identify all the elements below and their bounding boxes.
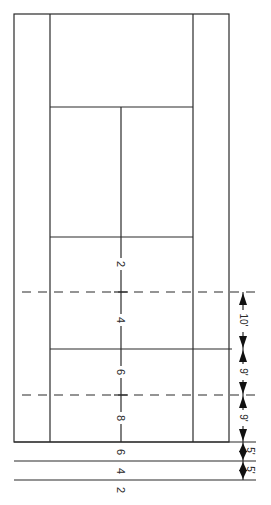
center-mark-8: 8 [115, 415, 127, 421]
center-mark-6: 6 [115, 369, 127, 375]
dim-10ft: 10' [238, 313, 249, 326]
center-mark-4: 4 [115, 317, 127, 323]
arrow-down-icon [239, 429, 247, 441]
center-mark-2: 2 [115, 261, 127, 267]
arrow-up-icon [239, 350, 247, 362]
behind-mark-4: 4 [115, 468, 127, 474]
dim-5ft-a: 5' [245, 447, 256, 455]
arrow-up-icon [239, 293, 247, 305]
dim-9ft-b: 9' [238, 414, 249, 422]
arrow-down-icon [239, 382, 247, 394]
behind-mark-6: 6 [115, 449, 127, 455]
arrow-up-icon [239, 396, 247, 408]
dimension-markers: 10' 9' 9' 5' 5' [238, 292, 256, 480]
behind-mark-2: 2 [115, 487, 127, 493]
behind-baseline-marks: 6 4 2 [115, 449, 127, 493]
dim-5ft-b: 5' [245, 466, 256, 474]
dim-9ft-a: 9' [238, 368, 249, 376]
tennis-court-diagram: 2 4 6 8 6 4 2 10' 9' 9' 5' [0, 0, 271, 505]
arrow-down-icon [239, 336, 247, 348]
